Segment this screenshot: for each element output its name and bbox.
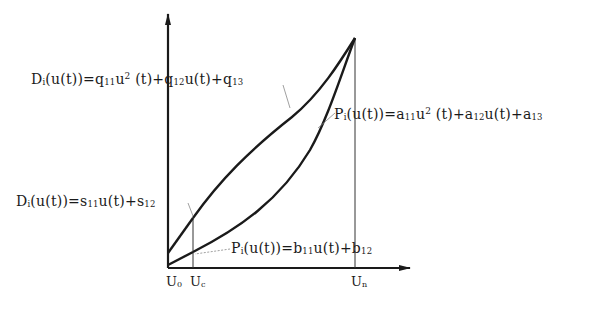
p-linear-curve: [168, 252, 193, 265]
d-linear-leader: [188, 203, 193, 216]
d-linear-label: Di(u(t))=s11u(t)+s12: [16, 193, 156, 209]
x-tick-un: Un: [351, 274, 367, 289]
x-tick-u0: U0: [166, 274, 182, 289]
d-quadratic-curve: [193, 38, 355, 218]
diagram-canvas: [0, 0, 600, 314]
p-linear-leader: [195, 249, 230, 254]
p-quadratic-label: Pi(u(t))=a11u2 (t)+a12u(t)+a13: [334, 106, 543, 122]
x-tick-uc: Uc: [190, 274, 205, 289]
p-linear-label: Pi(u(t))=b11u(t)+b12: [231, 240, 372, 256]
d-quadratic-label: Di(u(t))=q11u2 (t)+q12u(t)+q13: [31, 71, 243, 87]
d-quadratic-leader: [283, 85, 290, 108]
d-linear-curve: [168, 218, 193, 253]
